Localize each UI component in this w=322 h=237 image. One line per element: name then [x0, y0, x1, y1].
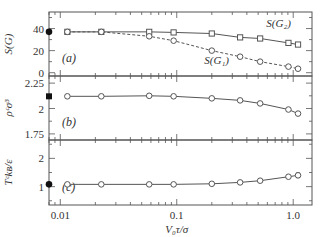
- data-point-square: [286, 40, 291, 45]
- y-axis-label: S(G): [2, 33, 15, 54]
- data-point-circle: [286, 174, 292, 180]
- data-point-circle: [99, 29, 105, 35]
- data-point-square: [238, 35, 243, 40]
- x-tick-label: 0.01: [51, 209, 70, 221]
- data-point-circle: [209, 96, 215, 102]
- data-point-circle: [146, 33, 152, 39]
- data-point-circle: [237, 180, 243, 186]
- data-point-circle: [146, 182, 152, 188]
- data-point-circle: [171, 94, 177, 100]
- y-tick-label: 40: [33, 23, 45, 35]
- data-point-circle: [295, 66, 301, 72]
- y-tick-label: 20: [33, 45, 45, 57]
- data-point-circle: [99, 94, 105, 100]
- y-tick-label: 2: [39, 103, 45, 115]
- y-tick-label: 2.25: [25, 77, 45, 89]
- data-point-circle: [257, 101, 263, 107]
- data-point-circle: [171, 182, 177, 188]
- data-point-circle: [65, 182, 71, 188]
- panel-b: 1.7522.25ρᶜσ³(b): [2, 76, 312, 140]
- panel-label: (a): [62, 51, 76, 65]
- data-point-circle: [286, 64, 292, 70]
- panel-a: 02040S(G)(a)S(G₂)S(G₁): [2, 12, 312, 79]
- x-tick-label: 1.0: [286, 209, 300, 221]
- data-point-square: [258, 36, 263, 41]
- reference-point: [46, 29, 53, 36]
- data-point-square: [171, 30, 176, 35]
- data-point-circle: [295, 173, 301, 179]
- data-point-circle: [295, 111, 301, 117]
- data-point-circle: [257, 59, 263, 65]
- data-point-circle: [65, 29, 71, 35]
- panel-c: 12Tᶜkʙ/ε(c): [2, 140, 312, 205]
- panel-label: (b): [62, 115, 76, 129]
- x-axis: 0.010.11.0V₀τ/σ: [51, 209, 301, 235]
- series-annotation: S(G₁): [204, 54, 229, 67]
- data-point-circle: [146, 93, 152, 99]
- data-point-circle: [171, 38, 177, 44]
- y-axis-label: Tᶜkʙ/ε: [2, 159, 14, 186]
- reference-point: [46, 93, 52, 99]
- x-tick-label: 0.1: [170, 209, 184, 221]
- data-point-circle: [286, 107, 292, 113]
- chart-svg: 02040S(G)(a)S(G₂)S(G₁)1.7522.25ρᶜσ³(b)12…: [0, 0, 322, 237]
- data-point-square: [295, 42, 300, 47]
- data-point-circle: [209, 48, 215, 54]
- reference-point: [46, 181, 53, 188]
- x-axis-label: V₀τ/σ: [165, 223, 189, 235]
- y-axis-label: ρᶜσ³: [2, 99, 14, 118]
- y-tick-label: 1: [39, 181, 45, 193]
- series-line: [67, 32, 298, 69]
- data-point-circle: [99, 182, 105, 188]
- data-point-circle: [237, 54, 243, 60]
- y-tick-label: 2: [39, 152, 45, 164]
- data-point-circle: [237, 98, 243, 104]
- series-annotation: S(G₂): [266, 17, 291, 30]
- data-point-square: [209, 31, 214, 36]
- axes-frame: [49, 76, 312, 140]
- data-point-circle: [65, 94, 71, 100]
- data-point-circle: [257, 178, 263, 184]
- data-point-circle: [209, 181, 215, 187]
- y-tick-label: 1.75: [25, 128, 45, 140]
- figure: 02040S(G)(a)S(G₂)S(G₁)1.7522.25ρᶜσ³(b)12…: [0, 0, 322, 237]
- axes-frame: [49, 140, 312, 205]
